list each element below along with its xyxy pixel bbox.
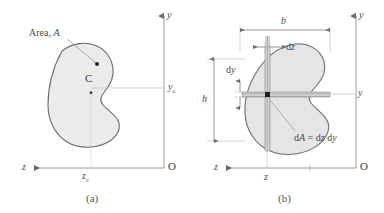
panel-a-yc-sub: c	[172, 87, 175, 95]
panel-a-zc-label: zc	[82, 170, 89, 184]
panel-b-dy-label: dy	[226, 64, 235, 75]
panel-a-zc-sub: c	[86, 176, 89, 184]
panel-b-dA-equation: dA = dz dy	[294, 132, 337, 143]
panel-b-dA-element	[265, 92, 270, 97]
panel-b-caption: (b)	[278, 192, 291, 204]
panel-b	[207, 16, 356, 171]
panel-b-y-axis-label: y	[359, 9, 363, 20]
figure-canvas: Area, A C y z O yc zc (a) y z O b h dz d…	[0, 0, 384, 213]
panel-a-origin-label: O	[168, 160, 176, 172]
panel-b-y-coord-label: y	[358, 87, 362, 98]
panel-b-eq-mid: = d	[305, 132, 321, 143]
panel-a-centroid-label: C	[85, 72, 92, 84]
panel-a-area-text: Area,	[29, 27, 51, 38]
panel-b-dy-var: y	[231, 64, 235, 75]
panel-a-area-label: Area, A	[29, 27, 60, 38]
panel-b-b-label: b	[281, 15, 286, 26]
panel-b-z-axis-label: z	[214, 161, 218, 172]
panel-b-dy-strip	[242, 92, 330, 97]
panel-a-z-axis-label: z	[22, 161, 26, 172]
panel-a	[34, 16, 164, 168]
panel-a-caption: (a)	[86, 192, 98, 204]
panel-b-dz-var: z	[291, 41, 295, 52]
panel-b-origin-label: O	[360, 160, 368, 172]
panel-b-z-coord-label: z	[264, 171, 268, 182]
panel-b-eq-y: y	[332, 132, 336, 143]
panel-a-yc-label: yc	[168, 81, 176, 95]
panel-b-dz-label: dz	[286, 41, 295, 52]
panel-a-area-symbol: A	[53, 27, 59, 38]
panel-a-area-shape	[48, 43, 119, 147]
panel-a-y-axis-label: y	[167, 9, 171, 20]
panel-a-area-point	[95, 62, 99, 66]
panel-b-dz-strip-visible	[265, 47, 270, 151]
panel-b-h-label: h	[202, 93, 207, 104]
